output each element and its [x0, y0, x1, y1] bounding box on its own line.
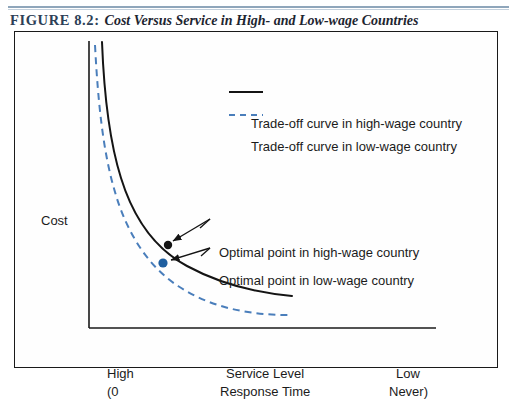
x-tick-mid-line2: Response Time [220, 384, 310, 399]
x-tick-right-line2: Never) [389, 384, 428, 399]
y-axis-label: Cost [41, 213, 68, 228]
header-rule-secondary [8, 9, 509, 10]
legend-label-high-wage: Trade-off curve in high-wage country [251, 116, 462, 131]
x-tick-left-line1: High [107, 366, 134, 381]
high-wage-optimal-point [164, 241, 172, 249]
figure-caption: FIGURE 8.2:Cost Versus Service in High- … [10, 11, 418, 29]
legend-label-low-wage: Trade-off curve in low-wage country [251, 139, 457, 154]
header-rule [8, 6, 509, 8]
chart-canvas [15, 32, 499, 369]
annotation-arrow-high-wage [173, 219, 210, 241]
figure-number: FIGURE 8.2: [10, 12, 100, 28]
annotation-label-low-wage: Optimal point in low-wage country [219, 273, 414, 288]
figure-frame: Cost Trade-off curve in high-wage countr… [14, 31, 498, 368]
annotation-label-high-wage: Optimal point in high-wage country [219, 245, 419, 260]
x-tick-right-line1: Low [396, 366, 420, 381]
figure-title: Cost Versus Service in High- and Low-wag… [105, 13, 419, 28]
x-tick-mid-line1: Service Level [226, 366, 304, 381]
x-tick-left-line2: (0 [107, 384, 119, 399]
low-wage-optimal-point [158, 258, 167, 267]
